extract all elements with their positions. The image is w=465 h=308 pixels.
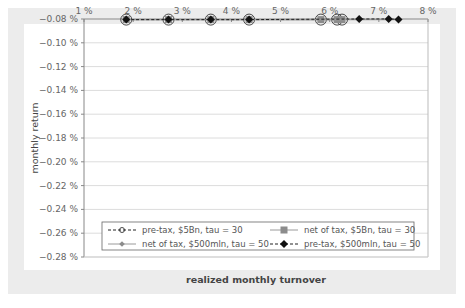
- x-tick-label: 5 %: [272, 6, 290, 16]
- legend-item-label: pre-tax, $5Bn, tau = 30: [142, 225, 243, 235]
- x-tick-label: 1 %: [75, 6, 93, 16]
- y-tick-label: −0.24 %: [39, 204, 78, 214]
- y-tick-label: −0.10 %: [39, 38, 78, 48]
- y-tick-label: −0.22 %: [39, 181, 78, 191]
- y-tick-label: −0.20 %: [39, 157, 78, 167]
- y-tick-label: −0.12 %: [39, 62, 78, 72]
- y-axis-label: monthly return: [29, 102, 40, 173]
- y-tick-label: −0.14 %: [39, 85, 78, 95]
- y-tick-label: −0.26 %: [39, 228, 78, 238]
- y-tick-label: −0.28 %: [39, 252, 78, 262]
- line-chart: −0.08 %−0.10 %−0.12 %−0.14 %−0.16 %−0.18…: [0, 0, 465, 308]
- legend-item-label: net of tax, $5Bn, tau = 30: [304, 225, 415, 235]
- x-tick-label: 7 %: [370, 6, 388, 16]
- y-tick-label: −0.18 %: [39, 133, 78, 143]
- y-tick-label: −0.16 %: [39, 109, 78, 119]
- x-tick-label: 3 %: [174, 6, 192, 16]
- legend-item-label: pre-tax, $500mln, tau = 50: [304, 239, 420, 249]
- y-tick-label: −0.08 %: [39, 14, 78, 24]
- x-tick-label: 4 %: [223, 6, 241, 16]
- x-tick-label: 8 %: [419, 6, 437, 16]
- legend-item-label: net of tax, $500mln, tau = 50: [142, 239, 269, 249]
- legend: pre-tax, $5Bn, tau = 30net of tax, $5Bn,…: [102, 222, 420, 250]
- x-axis-label: realized monthly turnover: [186, 274, 326, 285]
